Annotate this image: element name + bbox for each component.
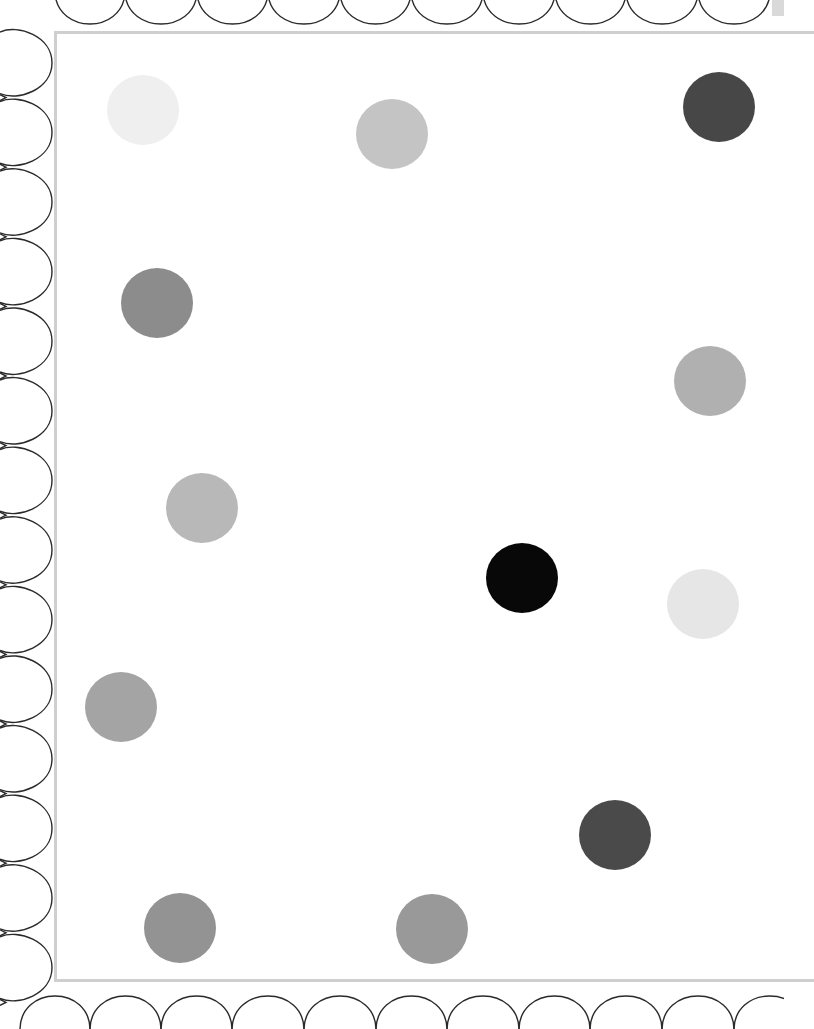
polka-dot (144, 893, 216, 963)
bottom-scallop-border (20, 996, 784, 1029)
scallop-arc (161, 996, 232, 1029)
scallop-arc (0, 303, 6, 309)
scallop-arc (0, 721, 6, 727)
scallop-arc (0, 512, 6, 518)
scallop-arc (0, 999, 6, 1005)
scallop-arc (0, 795, 52, 861)
polka-dot (683, 72, 755, 142)
scallop-arc (0, 169, 52, 235)
scallop-arc (0, 95, 6, 101)
scallop-arc (340, 0, 411, 24)
scallop-arc (125, 0, 197, 24)
polka-dot (85, 672, 157, 742)
scallop-arc (555, 0, 626, 24)
scallop-arc (519, 996, 590, 1029)
scallop-arc (0, 582, 6, 588)
scallop-arc (0, 308, 52, 374)
scallop-arc (0, 934, 52, 1000)
scallop-arc (90, 996, 161, 1029)
scallop-arc (304, 996, 376, 1029)
scallop-arc (0, 651, 6, 657)
scallop-arc (0, 726, 52, 792)
scallop-arc (483, 0, 555, 24)
scallop-arc (197, 0, 268, 24)
polka-dot (674, 346, 746, 416)
scallop-arc (0, 656, 52, 722)
polka-dot (121, 268, 193, 338)
top-scallop-border (55, 0, 770, 24)
scallop-arc (0, 99, 52, 165)
scallop-arc (0, 164, 6, 170)
scallop-arc (376, 996, 447, 1029)
scallop-arc (232, 996, 304, 1029)
polka-dot (579, 800, 651, 870)
scallop-arc (0, 860, 6, 866)
scallop-arc (0, 930, 6, 936)
polka-dot (667, 569, 739, 639)
scallop-arc (590, 996, 662, 1029)
scallop-arc (447, 996, 519, 1029)
scallop-arc (268, 0, 340, 24)
scallop-arc (0, 234, 6, 240)
scallop-arc (662, 996, 734, 1029)
scallop-arc (0, 30, 52, 96)
scallop-arc (0, 517, 52, 583)
scallop-arc (0, 443, 6, 449)
polka-dot (107, 75, 179, 145)
polka-dot (396, 894, 468, 964)
polka-dot (166, 473, 238, 543)
scallop-arc (734, 996, 784, 1029)
scallop-arc (0, 791, 6, 797)
scallop-arc (698, 0, 770, 24)
scallop-arc (0, 586, 52, 652)
scallop-arc (626, 0, 698, 24)
scallop-arc (20, 996, 90, 1029)
scallop-arc (411, 0, 483, 24)
polka-dot (486, 543, 558, 613)
scallop-arc (0, 238, 52, 304)
corner-block (772, 0, 784, 16)
scallop-arc (55, 0, 125, 24)
scallop-arc (0, 447, 52, 513)
polka-dot (356, 99, 428, 169)
left-scallop-border (0, 30, 52, 1006)
scallop-arc (0, 865, 52, 931)
scallop-arc (0, 378, 52, 444)
scallop-arc (0, 373, 6, 379)
